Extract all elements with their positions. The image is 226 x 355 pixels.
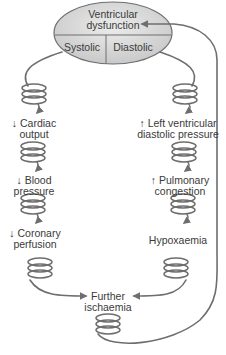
spring-icon-bottom [96,314,120,334]
lv-diastolic-pressure-label: ↑ Left ventricular diastolic pressure [128,118,226,140]
connector-diastolic [160,52,195,86]
cardiac-output-label: ↓ Cardiac output [4,118,64,140]
blood-pressure-label: ↓ Blood pressure [4,175,64,197]
diastolic-label: Diastolic [106,42,160,53]
spring-icon-right-1 [173,84,197,113]
vicious-cycle-diagram: Ventricular dysfunction Systolic Diastol… [0,0,226,355]
systolic-label: Systolic [58,42,106,53]
spring-icon-right-2 [172,142,196,171]
arrow-right-to-ischaemia [134,280,186,296]
coronary-perfusion-label: ↓ Coronary perfusion [2,228,68,250]
spring-icon-right-4 [164,258,188,278]
pulmonary-congestion-label: ↑ Pulmonary congestion [140,175,220,197]
spring-icon-left-3 [21,194,45,223]
arrow-left-to-ischaemia [30,280,86,296]
spring-icon-left-2 [21,142,45,171]
title-line-2: dysfunction [70,20,156,31]
connector-systolic [25,52,62,86]
spring-icon-right-3 [171,194,195,223]
spring-icon-left-1 [22,84,46,113]
further-ischaemia-label: Further ischaemia [80,291,136,313]
oval-title: Ventricular dysfunction [70,9,156,31]
hypoxaemia-label: Hypoxaemia [138,235,218,246]
spring-icon-left-4 [28,258,52,278]
